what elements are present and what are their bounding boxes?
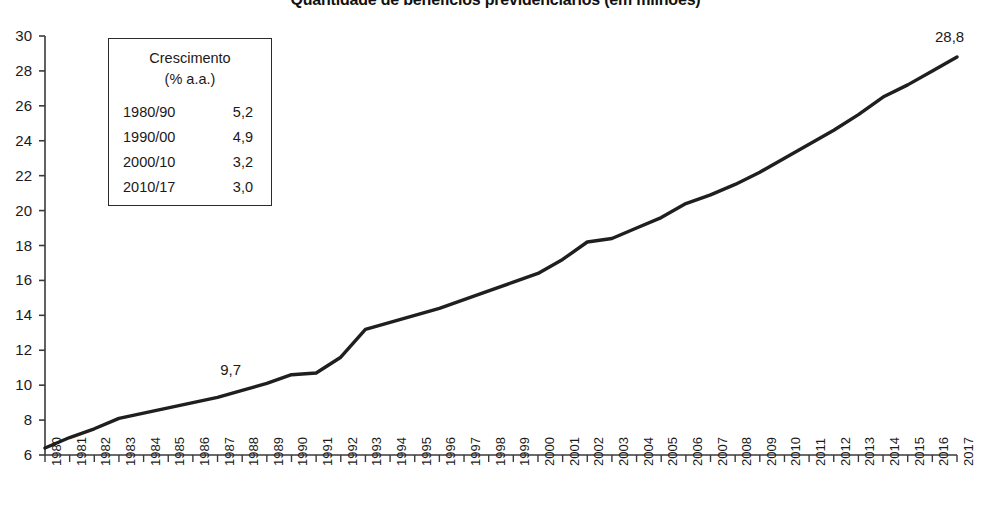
growth-rate-value: 5,2 (233, 100, 257, 125)
growth-box-row: 2010/173,0 (123, 175, 257, 200)
growth-box-rows: 1980/905,21990/004,92000/103,22010/173,0 (109, 100, 271, 200)
x-tick-label: 2012 (839, 437, 852, 466)
growth-box-row: 1980/905,2 (123, 100, 257, 125)
x-tick-label: 2009 (765, 437, 778, 466)
x-tick-label: 1994 (395, 437, 408, 466)
x-tick-label: 1982 (99, 437, 112, 466)
y-tick-label: 28 (0, 63, 32, 78)
growth-box-row: 2000/103,2 (123, 150, 257, 175)
x-tick-label: 1986 (198, 437, 211, 466)
y-tick-label: 24 (0, 133, 32, 148)
x-tick-label: 2005 (666, 437, 679, 466)
x-tick-label: 1999 (518, 437, 531, 466)
y-tick-label: 22 (0, 168, 32, 183)
growth-rate-value: 4,9 (233, 125, 257, 150)
growth-box-heading-line1: Crescimento (109, 48, 271, 69)
x-tick-label: 1997 (469, 437, 482, 466)
x-tick-label: 1984 (149, 437, 162, 466)
growth-rate-legend-box: Crescimento (% a.a.) 1980/905,21990/004,… (108, 38, 272, 206)
x-tick-label: 1992 (346, 437, 359, 466)
x-tick-label: 2008 (740, 437, 753, 466)
x-tick-label: 2006 (691, 437, 704, 466)
x-tick-label: 2002 (592, 437, 605, 466)
growth-period: 2000/10 (123, 150, 175, 175)
growth-period: 2010/17 (123, 175, 175, 200)
x-tick-label: 1993 (370, 437, 383, 466)
x-tick-label: 2004 (642, 437, 655, 466)
x-tick-label: 1995 (420, 437, 433, 466)
x-tick-label: 1998 (494, 437, 507, 466)
x-tick-label: 1980 (50, 437, 63, 466)
x-tick-label: 2000 (543, 437, 556, 466)
x-tick-label: 1985 (173, 437, 186, 466)
y-tick-label: 6 (0, 447, 32, 462)
x-tick-label: 1988 (247, 437, 260, 466)
x-tick-label: 2013 (863, 437, 876, 466)
x-tick-label: 1981 (75, 437, 88, 466)
x-tick-label: 2015 (913, 437, 926, 466)
data-label: 28,8 (935, 29, 964, 44)
x-tick-label: 2007 (716, 437, 729, 466)
y-tick-label: 14 (0, 307, 32, 322)
x-tick-label: 2010 (789, 437, 802, 466)
y-tick-label: 26 (0, 98, 32, 113)
y-tick-label: 18 (0, 238, 32, 253)
growth-period: 1990/00 (123, 125, 175, 150)
growth-rate-value: 3,2 (233, 150, 257, 175)
growth-rate-value: 3,0 (233, 175, 257, 200)
growth-period: 1980/90 (123, 100, 175, 125)
growth-box-row: 1990/004,9 (123, 125, 257, 150)
x-tick-label: 2003 (617, 437, 630, 466)
x-tick-label: 1990 (296, 437, 309, 466)
x-tick-label: 2016 (937, 437, 950, 466)
y-tick-label: 30 (0, 28, 32, 43)
y-tick-label: 20 (0, 203, 32, 218)
x-tick-label: 2014 (888, 437, 901, 466)
x-tick-label: 1983 (124, 437, 137, 466)
x-tick-label: 1996 (444, 437, 457, 466)
x-tick-label: 2011 (814, 438, 827, 466)
x-tick-label: 1991 (321, 437, 334, 466)
growth-box-heading: Crescimento (% a.a.) (109, 48, 271, 90)
data-label: 9,7 (220, 362, 241, 377)
y-tick-label: 16 (0, 272, 32, 287)
chart-container: Quantidade de benefícios previdenciários… (0, 0, 991, 524)
x-tick-label: 1989 (272, 437, 285, 466)
y-axis (39, 36, 45, 455)
x-tick-label: 2017 (962, 437, 975, 466)
y-tick-label: 10 (0, 377, 32, 392)
growth-box-heading-line2: (% a.a.) (109, 69, 271, 90)
y-tick-label: 12 (0, 342, 32, 357)
x-tick-label: 2001 (568, 437, 581, 466)
x-tick-label: 1987 (223, 437, 236, 466)
y-tick-label: 8 (0, 412, 32, 427)
